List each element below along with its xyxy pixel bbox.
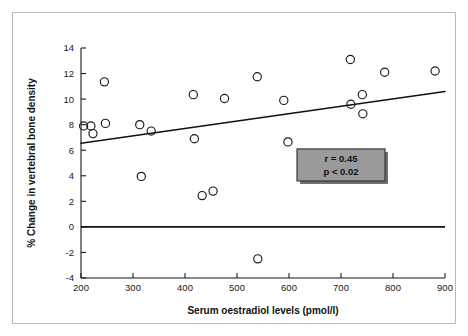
x-tick-label: 200 (73, 282, 89, 293)
data-point (431, 67, 439, 75)
data-point (346, 55, 354, 63)
y-tick-group (81, 48, 86, 278)
figure-frame: 200300400500600700800900 -4-202468101214… (12, 12, 456, 324)
y-tick-label: 8 (69, 119, 74, 130)
data-point (100, 78, 108, 86)
y-tick-label: 2 (69, 196, 74, 207)
data-point (254, 255, 262, 263)
p-value: p < 0.02 (323, 166, 358, 177)
data-point (253, 73, 261, 81)
y-tick-label: 10 (63, 94, 74, 105)
x-axis-title: Serum oestradiol levels (pmol/l) (187, 305, 338, 316)
y-tick-label: 4 (69, 170, 74, 181)
correlation-value: r = 0.45 (324, 153, 358, 164)
y-tick-label-group: -4-202468101214 (63, 42, 74, 283)
y-tick-label: -2 (66, 247, 74, 258)
y-axis-title: % Change in vertebral bone density (26, 78, 37, 248)
data-point (190, 135, 198, 143)
y-tick-label: 0 (69, 221, 74, 232)
x-tick-label: 700 (333, 282, 349, 293)
x-tick-label: 600 (281, 282, 297, 293)
x-tick-group (81, 273, 445, 278)
data-point (137, 172, 145, 180)
x-tick-label: 800 (385, 282, 401, 293)
x-tick-label: 500 (229, 282, 245, 293)
x-tick-label: 400 (177, 282, 193, 293)
y-tick-label: -4 (66, 272, 74, 283)
y-tick-label: 6 (69, 145, 74, 156)
data-point (209, 187, 217, 195)
data-point (101, 119, 109, 127)
x-tick-label: 300 (125, 282, 141, 293)
x-tick-label-group: 200300400500600700800900 (73, 282, 453, 293)
data-point (220, 94, 228, 102)
axes-group (81, 48, 445, 278)
data-point (198, 191, 206, 199)
x-tick-label: 900 (437, 282, 453, 293)
data-point (189, 91, 197, 99)
y-tick-label: 12 (63, 68, 74, 79)
data-point (89, 130, 97, 138)
data-point (136, 121, 144, 129)
data-point (280, 96, 288, 104)
data-point (358, 91, 366, 99)
data-point (359, 110, 367, 118)
y-tick-label: 14 (63, 42, 74, 53)
regression-line (81, 91, 445, 143)
scatter-plot: 200300400500600700800900 -4-202468101214… (13, 13, 455, 323)
statistics-box: r = 0.45 p < 0.02 (297, 149, 388, 184)
data-point (284, 138, 292, 146)
data-point (381, 68, 389, 76)
